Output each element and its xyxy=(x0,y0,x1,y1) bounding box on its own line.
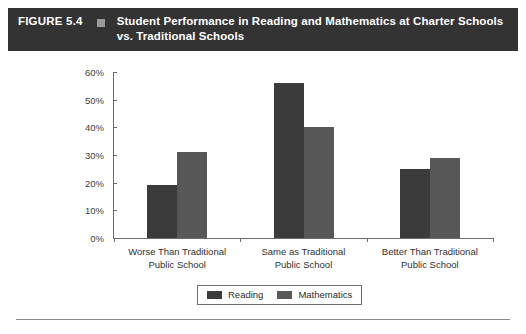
x-axis-category-label: Better Than TraditionalPublic School xyxy=(367,246,493,272)
x-axis-tick-mark xyxy=(240,238,241,242)
bar-reading-2 xyxy=(274,83,304,238)
x-axis-category-label-line: Better Than Traditional xyxy=(367,246,493,259)
figure-header-bar: FIGURE 5.4 Student Performance in Readin… xyxy=(8,8,518,51)
square-bullet-icon xyxy=(97,19,105,27)
y-axis-tick-label: 40% xyxy=(85,122,104,133)
figure-number-label: FIGURE 5.4 xyxy=(18,14,83,27)
bar-reading-1 xyxy=(147,185,177,238)
x-axis-category-label: Worse Than TraditionalPublic School xyxy=(114,246,240,272)
legend-item-reading[interactable]: Reading xyxy=(207,289,263,300)
y-axis-tick-label: 10% xyxy=(85,205,104,216)
y-axis-tick-labels: 0%10%20%30%40%50%60% xyxy=(8,52,104,300)
x-axis-category-label: Same as TraditionalPublic School xyxy=(240,246,366,272)
y-axis-tick-mark xyxy=(113,155,117,156)
x-axis-line xyxy=(113,238,493,239)
x-axis-category-label-line: Same as Traditional xyxy=(240,246,366,259)
y-axis-tick-label: 20% xyxy=(85,177,104,188)
y-axis-tick-mark xyxy=(113,183,117,184)
y-axis-tick-label: 50% xyxy=(85,94,104,105)
figure-title: Student Performance in Reading and Mathe… xyxy=(117,14,508,44)
y-axis-tick-mark xyxy=(113,127,117,128)
y-axis-tick-label: 30% xyxy=(85,150,104,161)
legend-swatch-icon xyxy=(207,291,222,299)
plot-area xyxy=(114,72,493,238)
chart-legend: ReadingMathematics xyxy=(197,285,362,305)
footer-divider xyxy=(16,319,510,320)
x-axis-category-label-line: Worse Than Traditional xyxy=(114,246,240,259)
bar-mathematics-2 xyxy=(304,127,334,238)
legend-item-label: Reading xyxy=(228,289,263,300)
legend-item-mathematics[interactable]: Mathematics xyxy=(277,289,352,300)
y-axis-tick-mark xyxy=(113,100,117,101)
bar-chart: 0%10%20%30%40%50%60% Worse Than Traditio… xyxy=(8,52,518,300)
x-axis-category-label-line: Public School xyxy=(114,259,240,272)
x-axis-tick-mark xyxy=(493,238,494,242)
bar-mathematics-1 xyxy=(177,152,207,238)
x-axis-tick-mark xyxy=(114,238,115,242)
legend-item-label: Mathematics xyxy=(298,289,352,300)
legend-swatch-icon xyxy=(277,291,292,299)
y-axis-tick-mark xyxy=(113,210,117,211)
bar-mathematics-3 xyxy=(430,158,460,238)
x-axis-category-label-line: Public School xyxy=(367,259,493,272)
x-axis-tick-mark xyxy=(367,238,368,242)
x-axis-category-label-line: Public School xyxy=(240,259,366,272)
y-axis-tick-label: 60% xyxy=(85,67,104,78)
bar-reading-3 xyxy=(400,169,430,238)
y-axis-tick-mark xyxy=(113,72,117,73)
y-axis-tick-label: 0% xyxy=(90,233,104,244)
